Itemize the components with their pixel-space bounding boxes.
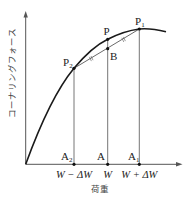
x-axis-title: 荷重	[91, 184, 109, 194]
label-a1: A1	[128, 150, 140, 164]
point-a2	[72, 163, 75, 166]
tick-label-w-plus-dw: W + ΔW	[121, 169, 158, 180]
label-p2: P2	[63, 56, 73, 70]
point-p2	[72, 67, 75, 70]
label-p1: P1	[135, 15, 145, 29]
y-axis-arrow-icon	[24, 11, 28, 18]
x-axis-arrow-icon	[176, 162, 183, 166]
cornering-force-diagram: P2 P B P1 A2 A A1 W − ΔW W W + ΔW 荷重 コーナ…	[0, 0, 183, 197]
label-b: B	[110, 50, 117, 62]
point-a	[106, 163, 109, 166]
label-p: P	[104, 25, 110, 37]
point-p	[106, 38, 109, 41]
x-tick-labels: W − ΔW W W + ΔW	[56, 169, 159, 180]
tick-label-w: W	[103, 169, 113, 180]
label-a2: A2	[61, 150, 73, 164]
label-a: A	[97, 150, 105, 162]
point-b	[106, 47, 109, 50]
tick-label-w-minus-dw: W − ΔW	[56, 169, 93, 180]
y-axis-title: コーナリングフォース	[7, 28, 17, 118]
points	[72, 27, 140, 166]
cornering-force-curve	[26, 29, 166, 165]
